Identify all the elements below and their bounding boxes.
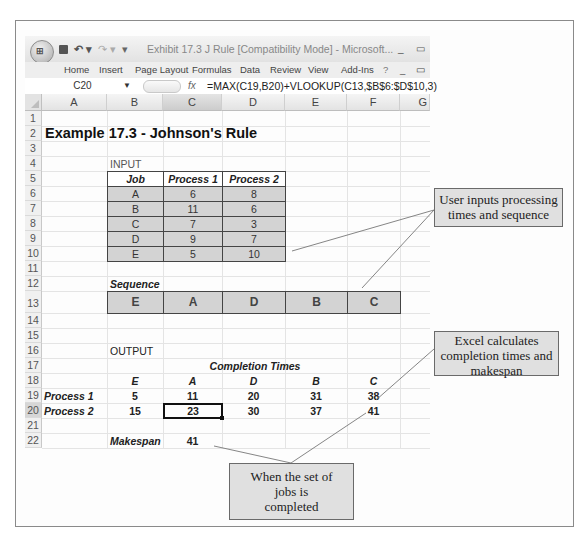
output-header: E bbox=[107, 374, 163, 389]
gridline bbox=[42, 433, 430, 434]
active-cell-c20[interactable]: 23 bbox=[163, 403, 223, 419]
input-header-process1[interactable]: Process 1 bbox=[163, 171, 223, 187]
process2-value[interactable]: 37 bbox=[285, 404, 347, 419]
column-header-a[interactable]: A bbox=[42, 94, 107, 111]
undo-icon[interactable]: ↶ ▾ bbox=[74, 43, 92, 56]
input-job-cell[interactable]: A bbox=[107, 186, 164, 202]
input-process1-cell[interactable]: 6 bbox=[163, 186, 223, 202]
input-job-cell[interactable]: C bbox=[107, 216, 164, 232]
input-process1-cell[interactable]: 7 bbox=[163, 216, 223, 232]
row-header-21[interactable]: 21 bbox=[25, 418, 42, 433]
tab-insert[interactable]: Insert bbox=[99, 64, 123, 75]
row-header-4[interactable]: 4 bbox=[25, 156, 42, 171]
column-header-f[interactable]: F bbox=[347, 94, 400, 111]
process2-value[interactable]: 15 bbox=[107, 404, 163, 419]
process2-value[interactable]: 41 bbox=[347, 404, 400, 419]
tab-data[interactable]: Data bbox=[240, 64, 260, 75]
input-process1-cell[interactable]: 9 bbox=[163, 231, 223, 247]
row-header-6[interactable]: 6 bbox=[25, 186, 42, 201]
output-header: B bbox=[285, 374, 347, 389]
column-header-b[interactable]: B bbox=[107, 94, 163, 111]
row-header-13[interactable]: 13 bbox=[25, 291, 42, 313]
office-button[interactable]: ⊞ bbox=[30, 40, 54, 64]
tab-review[interactable]: Review bbox=[270, 64, 301, 75]
row-header-2[interactable]: 2 bbox=[25, 126, 42, 141]
row-header-3[interactable]: 3 bbox=[25, 141, 42, 156]
row-header-22[interactable]: 22 bbox=[25, 433, 42, 448]
column-header-e[interactable]: E bbox=[285, 94, 347, 111]
row-header-8[interactable]: 8 bbox=[25, 216, 42, 231]
help-icon[interactable]: ? bbox=[383, 64, 388, 75]
input-header-job[interactable]: Job bbox=[107, 171, 164, 187]
makespan-value[interactable]: 41 bbox=[163, 434, 222, 449]
window-title: Exhibit 17.3 J Rule [Compatibility Mode]… bbox=[147, 43, 393, 55]
makespan-label: Makespan bbox=[110, 434, 161, 449]
ribbon-minimize-button[interactable]: _ bbox=[400, 64, 405, 75]
tab-add-ins[interactable]: Add-Ins bbox=[341, 64, 374, 75]
insert-function-icon[interactable]: fx bbox=[188, 78, 196, 94]
row-header-19[interactable]: 19 bbox=[25, 388, 42, 403]
row-header-16[interactable]: 16 bbox=[25, 343, 42, 358]
output-label: OUTPUT bbox=[110, 344, 153, 359]
sequence-cell[interactable]: D bbox=[222, 291, 286, 314]
gridline bbox=[42, 343, 430, 344]
row-header-9[interactable]: 9 bbox=[25, 231, 42, 246]
output-header: D bbox=[222, 374, 285, 389]
sequence-cell[interactable]: A bbox=[163, 291, 223, 314]
tab-view[interactable]: View bbox=[308, 64, 328, 75]
column-header-c[interactable]: C bbox=[163, 94, 222, 111]
input-process2-cell[interactable]: 6 bbox=[222, 201, 286, 217]
row-header-17[interactable]: 17 bbox=[25, 358, 42, 373]
gridline bbox=[400, 111, 401, 448]
formula-bar: C20 ▼ fx =MAX(C19,B20)+VLOOKUP(C13,$B$6:… bbox=[25, 78, 430, 95]
redo-icon[interactable]: ↷ ▾ bbox=[98, 43, 116, 56]
input-process2-cell[interactable]: 8 bbox=[222, 186, 286, 202]
formula-buttons[interactable] bbox=[143, 80, 181, 93]
process1-value[interactable]: 20 bbox=[222, 389, 285, 404]
input-process2-cell[interactable]: 3 bbox=[222, 216, 286, 232]
row-header-14[interactable]: 14 bbox=[25, 313, 42, 328]
column-header-d[interactable]: D bbox=[222, 94, 285, 111]
gridline bbox=[42, 328, 430, 329]
office-logo-icon: ⊞ bbox=[36, 46, 44, 56]
formula-input[interactable]: =MAX(C19,B20)+VLOOKUP(C13,$B$6:$D$10,3) bbox=[207, 78, 437, 94]
tab-page-layout[interactable]: Page Layout bbox=[135, 64, 188, 75]
input-job-cell[interactable]: E bbox=[107, 246, 164, 262]
tab-home[interactable]: Home bbox=[64, 64, 89, 75]
sequence-cell[interactable]: E bbox=[107, 291, 164, 314]
row-header-11[interactable]: 11 bbox=[25, 261, 42, 276]
input-job-cell[interactable]: B bbox=[107, 201, 164, 217]
sequence-cell[interactable]: C bbox=[347, 291, 401, 314]
column-header-g[interactable]: G bbox=[400, 94, 430, 111]
row-header-1[interactable]: 1 bbox=[25, 111, 42, 126]
customize-qat-icon[interactable]: ▾ bbox=[122, 43, 128, 56]
process1-value[interactable]: 5 bbox=[107, 389, 163, 404]
ribbon-restore-button[interactable]: ▭ bbox=[416, 64, 425, 75]
process2-value[interactable]: 30 bbox=[222, 404, 285, 419]
row-header-10[interactable]: 10 bbox=[25, 246, 42, 261]
row-header-18[interactable]: 18 bbox=[25, 373, 42, 388]
minimize-button[interactable]: _ bbox=[398, 43, 404, 54]
row-header-7[interactable]: 7 bbox=[25, 201, 42, 216]
process2-row-label: Process 2 bbox=[44, 404, 94, 419]
row-header-5[interactable]: 5 bbox=[25, 171, 42, 186]
process1-value[interactable]: 38 bbox=[347, 389, 400, 404]
input-job-cell[interactable]: D bbox=[107, 231, 164, 247]
input-header-process2[interactable]: Process 2 bbox=[222, 171, 286, 187]
process1-value[interactable]: 31 bbox=[285, 389, 347, 404]
save-icon[interactable] bbox=[59, 45, 68, 54]
completion-times-label: Completion Times bbox=[195, 359, 315, 374]
sequence-cell[interactable]: B bbox=[285, 291, 348, 314]
process1-value[interactable]: 11 bbox=[163, 389, 222, 404]
input-process1-cell[interactable]: 5 bbox=[163, 246, 223, 262]
restore-button[interactable]: ▭ bbox=[416, 43, 425, 54]
row-header-20[interactable]: 20 bbox=[25, 403, 42, 418]
input-process2-cell[interactable]: 10 bbox=[222, 246, 286, 262]
row-header-15[interactable]: 15 bbox=[25, 328, 42, 343]
input-process2-cell[interactable]: 7 bbox=[222, 231, 286, 247]
tab-formulas[interactable]: Formulas bbox=[192, 64, 232, 75]
row-header-12[interactable]: 12 bbox=[25, 276, 42, 291]
input-process1-cell[interactable]: 11 bbox=[163, 201, 223, 217]
chevron-down-icon[interactable]: ▼ bbox=[123, 78, 131, 94]
select-all-corner[interactable] bbox=[25, 94, 42, 111]
